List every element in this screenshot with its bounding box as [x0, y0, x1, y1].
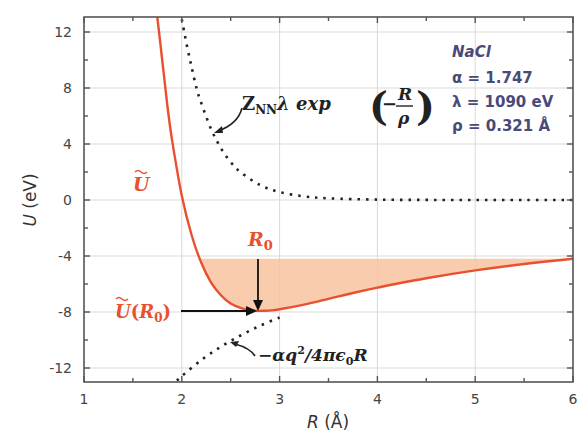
y-tick-label: -4 [58, 248, 72, 264]
attractive-term-label: −αq2/4πϵ0R [258, 344, 368, 368]
potential-energy-chart: 123456 -12-8-404812 R (Å) U (eV) U R0 U(… [0, 0, 588, 441]
svg-text:ρ: ρ [397, 108, 410, 128]
lambda-value: λ = 1090 eV [452, 93, 554, 111]
madelung-constant: α = 1.747 [452, 69, 533, 87]
x-axis-title: R (Å) [307, 411, 349, 432]
svg-text:): ) [416, 82, 435, 129]
svg-text:U: U [133, 173, 151, 195]
x-tick-label: 4 [373, 391, 382, 407]
svg-text:−: − [382, 93, 397, 114]
y-tick-labels: -12-8-404812 [49, 24, 72, 376]
rho-value: ρ = 0.321 Å [452, 116, 550, 135]
x-tick-label: 3 [275, 391, 284, 407]
x-tick-label: 2 [177, 391, 186, 407]
y-tick-label: -8 [58, 304, 72, 320]
x-tick-labels: 123456 [80, 391, 578, 407]
y-tick-label: 12 [54, 24, 72, 40]
svg-text:ZNNλ exp: ZNNλ exp [242, 93, 331, 117]
y-tick-label: 4 [63, 136, 72, 152]
r0-label: R0 [247, 228, 273, 253]
attractive-pointer-arrow [235, 344, 255, 356]
material-name: NaCl [452, 43, 492, 61]
svg-text:R: R [397, 84, 412, 104]
y-axis-title: U (eV) [20, 173, 40, 226]
material-info-box: NaCl α = 1.747 λ = 1090 eV ρ = 0.321 Å [452, 43, 554, 135]
x-tick-label: 1 [80, 391, 89, 407]
x-tick-label: 6 [569, 391, 578, 407]
u-tilde-label: U [133, 171, 151, 196]
u-r0-label: U(R0) [115, 298, 171, 326]
repulsive-term-label: ZNNλ exp ( − R ρ ) [242, 82, 435, 129]
svg-text:U(R0): U(R0) [115, 301, 171, 325]
repulsive-pointer-arrowhead-icon [214, 126, 223, 133]
y-tick-label: 8 [63, 80, 72, 96]
x-tick-label: 5 [471, 391, 480, 407]
y-tick-label: 0 [63, 192, 72, 208]
svg-text:−αq2/4πϵ0R: −αq2/4πϵ0R [258, 344, 368, 368]
y-tick-label: -12 [49, 360, 72, 376]
